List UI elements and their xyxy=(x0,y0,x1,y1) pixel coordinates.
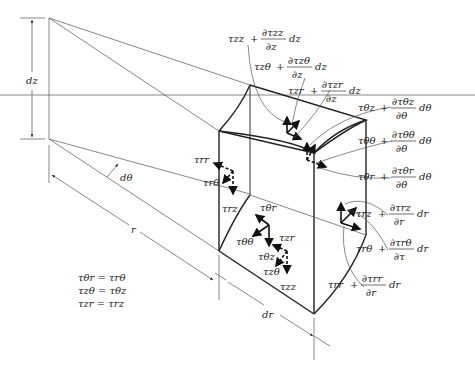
increment-expression: τθθ+∂τθθ∂θdθ xyxy=(358,129,431,154)
dr-label: dr xyxy=(262,309,274,320)
differential: dr xyxy=(389,279,401,290)
partial-numerator: ∂τzr xyxy=(322,79,344,90)
increment-expression: τθr+∂τθr∂θdθ xyxy=(358,165,431,190)
partial-denominator: ∂θ xyxy=(396,110,407,121)
partial-numerator: ∂τrr xyxy=(362,273,383,284)
dtheta-arc xyxy=(107,164,118,177)
plus-sign: + xyxy=(276,61,284,72)
partial-denominator: ∂z xyxy=(326,93,337,104)
r-dimension: r xyxy=(52,175,213,280)
partial-numerator: ∂τzz xyxy=(262,27,284,38)
symmetry-relation: τzθ = τθz xyxy=(78,285,127,296)
increment-expression: τrθ+∂τrθ∂τdr xyxy=(356,237,429,262)
partial-denominator: ∂z xyxy=(292,69,303,80)
front-face-arrows xyxy=(253,215,269,246)
stress-element-diagram: dz dθ r dr xyxy=(0,0,475,375)
plus-sign: + xyxy=(350,279,358,290)
label-tthetatheta: τθθ xyxy=(236,236,254,247)
partial-denominator: ∂θ xyxy=(396,179,407,190)
increment-base: τzθ xyxy=(254,61,271,72)
dtheta-label: dθ xyxy=(120,172,132,183)
differential: dθ xyxy=(419,135,431,146)
partial-denominator: ∂r xyxy=(366,287,377,298)
plus-sign: + xyxy=(250,33,258,44)
partial-numerator: ∂τzθ xyxy=(288,55,310,66)
construction-line xyxy=(49,18,250,85)
partial-denominator: ∂r xyxy=(394,216,405,227)
extension-line xyxy=(314,336,330,346)
dz-dimension: dz xyxy=(20,18,45,139)
partial-denominator: ∂θ xyxy=(396,143,407,154)
label-tztheta: τzθ xyxy=(263,266,280,277)
increment-expression: τrr+∂τrr∂rdr xyxy=(328,273,401,298)
plus-sign: + xyxy=(378,208,386,219)
partial-numerator: ∂τθz xyxy=(392,96,415,107)
partial-numerator: ∂τθθ xyxy=(392,129,415,140)
label-tzr: τzr xyxy=(279,232,296,243)
dr-dimension: dr xyxy=(215,273,313,336)
increment-base: τθz xyxy=(358,102,376,113)
top-face-arrows xyxy=(287,117,301,139)
construction-line xyxy=(49,139,250,194)
increment-base: τrr xyxy=(328,279,344,290)
plus-sign: + xyxy=(378,243,386,254)
differential: dr xyxy=(417,243,429,254)
partial-numerator: ∂τθr xyxy=(392,165,415,176)
plus-sign: + xyxy=(380,135,388,146)
construction-line xyxy=(49,18,219,131)
symmetry-relation: τθr = τrθ xyxy=(78,272,125,283)
differential: dθ xyxy=(419,102,431,113)
label-trr: τrr xyxy=(194,154,210,165)
differential: dz xyxy=(349,85,361,96)
differential: dθ xyxy=(419,171,431,182)
differential: dr xyxy=(417,208,429,219)
differential: dz xyxy=(315,61,327,72)
dz-label: dz xyxy=(26,75,38,86)
partial-numerator: ∂τrz xyxy=(390,202,411,213)
increment-expression: τrz+∂τrz∂rdr xyxy=(356,202,429,227)
partial-denominator: ∂z xyxy=(266,41,277,52)
r-label: r xyxy=(131,224,137,235)
increment-base: τθr xyxy=(358,171,376,182)
symmetry-relations: τθr = τrθ τzθ = τθz τzr = τrz xyxy=(78,272,127,309)
increment-base: τzr xyxy=(288,85,305,96)
increment-expression: τzθ+∂τzθ∂zdz xyxy=(254,55,327,80)
partial-denominator: ∂τ xyxy=(394,251,405,262)
increment-base: τzz xyxy=(228,33,245,44)
increment-base: τrz xyxy=(356,208,372,219)
plus-sign: + xyxy=(310,85,318,96)
plus-sign: + xyxy=(380,171,388,182)
label-tzz: τzz xyxy=(280,281,297,292)
increment-base: τθθ xyxy=(358,135,376,146)
partial-numerator: ∂τrθ xyxy=(390,237,412,248)
increment-base: τrθ xyxy=(356,243,372,254)
increment-expression: τθz+∂τθz∂θdθ xyxy=(358,96,431,121)
label-trz: τrz xyxy=(222,203,238,214)
differential: dz xyxy=(289,33,301,44)
label-trtheta: τrθ xyxy=(203,177,219,188)
label-tthetaz: τθz xyxy=(258,251,276,262)
plus-sign: + xyxy=(380,102,388,113)
symmetry-relation: τzr = τrz xyxy=(78,298,125,309)
increment-expression: τzz+∂τzz∂zdz xyxy=(228,27,301,52)
label-tthetar: τθr xyxy=(260,202,278,213)
